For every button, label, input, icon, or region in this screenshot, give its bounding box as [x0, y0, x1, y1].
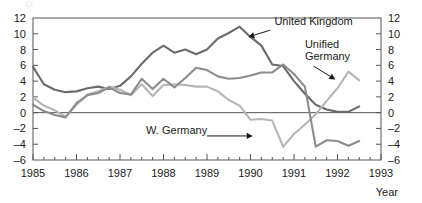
annotation-label-united-kingdom: United Kingdom [274, 15, 352, 27]
x-axis-tick-label: 1986 [64, 167, 88, 179]
y-axis-tick-label-right: 2 [388, 91, 394, 103]
x-axis-tick-label: 1988 [151, 167, 175, 179]
chart-container: –6–6–4–4–2–20022446688101012121985198619… [0, 0, 422, 203]
y-axis-tick-label-right: –6 [388, 154, 400, 166]
y-axis-tick-label-right: 6 [388, 59, 394, 71]
y-axis-tick-label-right: 12 [388, 12, 400, 24]
y-axis-tick-label-left: 0 [20, 107, 26, 119]
y-axis-tick-label-left: 2 [20, 91, 26, 103]
x-axis-tick-label: 1990 [238, 167, 262, 179]
line-chart-svg: –6–6–4–4–2–20022446688101012121985198619… [0, 0, 422, 203]
y-axis-tick-label-right: –2 [388, 122, 400, 134]
x-axis-tick-label: 1992 [325, 167, 349, 179]
y-axis-tick-label-left: –4 [14, 138, 26, 150]
y-axis-tick-label-right: 8 [388, 44, 394, 56]
y-axis-tick-label-left: 12 [14, 12, 26, 24]
x-axis-tick-label: 1991 [282, 167, 306, 179]
y-axis-tick-label-right: 10 [388, 28, 400, 40]
y-axis-tick-label-left: 8 [20, 44, 26, 56]
y-axis-tick-label-left: 6 [20, 59, 26, 71]
annotation-label-unified-germany-line2: Germany [305, 50, 351, 62]
y-axis-tick-label-left: –6 [14, 154, 26, 166]
y-axis-tick-label-left: 4 [20, 75, 26, 87]
x-axis-tick-label: 1985 [21, 167, 45, 179]
x-axis-tick-label: 1989 [195, 167, 219, 179]
x-axis-tick-label: 1993 [369, 167, 393, 179]
y-axis-tick-label-right: 0 [388, 107, 394, 119]
annotation-label-w-germany: W. Germany [146, 124, 208, 136]
y-axis-tick-label-right: –4 [388, 138, 400, 150]
y-axis-tick-label-left: –2 [14, 122, 26, 134]
y-axis-tick-label-right: 4 [388, 75, 394, 87]
x-axis-tick-label: 1987 [108, 167, 132, 179]
annotation-label-unified-germany: Unified [305, 38, 339, 50]
x-axis-title: Year [376, 186, 399, 198]
y-axis-tick-label-left: 10 [14, 28, 26, 40]
